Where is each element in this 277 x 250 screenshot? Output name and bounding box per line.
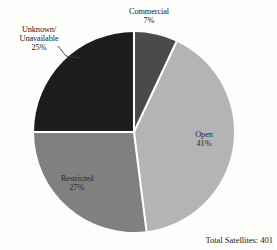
slice-label-commercial: Commercial 7% xyxy=(108,8,190,26)
slice-label-restricted: Restricted 27% xyxy=(44,175,110,193)
slice-label-open-percent: 41% xyxy=(178,140,230,149)
slice-label-open: Open 41% xyxy=(178,131,230,149)
slice-label-unknown-unavailable: Unknown/ Unavailable 25% xyxy=(2,26,76,52)
slice-label-restricted-percent: 27% xyxy=(44,184,110,193)
total-satellites-caption: Total Satellites: 401 xyxy=(205,235,273,245)
slice-label-commercial-percent: 7% xyxy=(108,17,190,26)
pie-chart-figure: Commercial 7% Unknown/ Unavailable 25% O… xyxy=(0,0,277,250)
slice-label-unknown-percent: 25% xyxy=(2,44,76,53)
